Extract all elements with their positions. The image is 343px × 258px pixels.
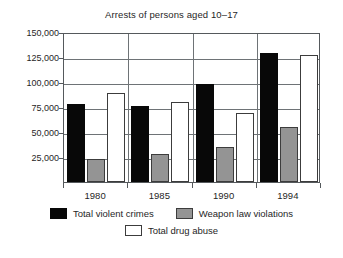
legend-item-weapon-law-violations[interactable]: Weapon law violations bbox=[176, 208, 293, 219]
x-tick-label: 1980 bbox=[63, 190, 127, 201]
bar-1994-drug bbox=[300, 55, 318, 182]
legend-label-violent: Total violent crimes bbox=[73, 208, 154, 219]
y-tick-label: 50,000 bbox=[1, 129, 59, 138]
legend-row-secondary: Total drug abuse bbox=[0, 225, 343, 236]
bar-1990-drug bbox=[236, 113, 254, 182]
bar-1980-weapon bbox=[87, 159, 105, 182]
y-tick-label: 25,000 bbox=[1, 154, 59, 163]
chart-title: Arrests of persons aged 10–17 bbox=[0, 9, 343, 20]
plot-area bbox=[63, 33, 320, 183]
bar-1990-weapon bbox=[216, 147, 234, 182]
y-tick-label: 125,000 bbox=[1, 54, 59, 63]
bar-1985-violent bbox=[131, 106, 149, 182]
group-separator bbox=[193, 34, 194, 182]
x-tick-mark bbox=[63, 183, 64, 188]
y-tick-label: 75,000 bbox=[1, 104, 59, 113]
bar-1980-violent bbox=[67, 104, 85, 182]
legend-row-primary: Total violent crimes Weapon law violatio… bbox=[0, 208, 343, 219]
x-axis: 1980198519901994 bbox=[63, 183, 320, 205]
group-separator bbox=[128, 34, 129, 182]
x-tick-mark bbox=[320, 183, 321, 188]
legend-label-drug: Total drug abuse bbox=[148, 225, 218, 236]
y-tick-label: 100,000 bbox=[1, 79, 59, 88]
gridline bbox=[64, 109, 319, 110]
legend-item-total-violent-crimes[interactable]: Total violent crimes bbox=[50, 208, 154, 219]
bar-1994-violent bbox=[260, 53, 278, 182]
legend-swatch-icon-violent bbox=[50, 208, 67, 219]
group-separator bbox=[257, 34, 258, 182]
bar-1994-weapon bbox=[280, 127, 298, 182]
bar-1980-drug bbox=[107, 93, 125, 182]
legend-swatch-icon-drug bbox=[125, 225, 142, 236]
y-tick-label: 150,000 bbox=[1, 29, 59, 38]
bar-chart: Arrests of persons aged 10–17 150,000125… bbox=[0, 0, 343, 258]
chart-legend: Total violent crimes Weapon law violatio… bbox=[0, 208, 343, 242]
x-tick-mark bbox=[256, 183, 257, 188]
y-axis: 150,000125,000100,00075,00050,00025,000 bbox=[0, 33, 59, 183]
legend-label-weapon: Weapon law violations bbox=[199, 208, 293, 219]
bar-1990-violent bbox=[196, 84, 214, 182]
gridline bbox=[64, 59, 319, 60]
x-tick-mark bbox=[127, 183, 128, 188]
x-tick-mark bbox=[192, 183, 193, 188]
legend-item-total-drug-abuse[interactable]: Total drug abuse bbox=[125, 225, 218, 236]
bar-1985-weapon bbox=[151, 154, 169, 182]
x-tick-label: 1990 bbox=[192, 190, 256, 201]
x-tick-label: 1994 bbox=[256, 190, 320, 201]
legend-swatch-icon-weapon bbox=[176, 208, 193, 219]
x-tick-label: 1985 bbox=[127, 190, 191, 201]
bar-1985-drug bbox=[171, 102, 189, 182]
gridline bbox=[64, 84, 319, 85]
